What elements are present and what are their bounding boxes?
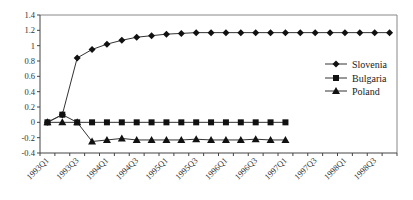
x-tick-label: 1993Q1 (24, 155, 50, 181)
legend-label-bulgaria: Bulgaria (352, 73, 387, 84)
diamond-marker-icon (103, 41, 110, 48)
x-tick-label: 1996Q1 (203, 155, 229, 181)
diamond-marker-icon (237, 29, 244, 36)
diamond-marker-icon (386, 29, 393, 36)
triangle-marker-icon (252, 135, 260, 142)
data-series (43, 29, 393, 144)
square-marker-icon (282, 119, 288, 125)
y-tick-label: 0 (31, 117, 35, 127)
x-tick-label: 1998Q3 (352, 155, 378, 181)
diamond-marker-icon (333, 61, 340, 68)
diamond-marker-icon (178, 30, 185, 37)
diamond-marker-icon (89, 46, 96, 53)
diamond-marker-icon (74, 54, 81, 61)
y-tick-label: 0.4 (24, 87, 35, 97)
diamond-marker-icon (148, 32, 155, 39)
line-chart: 1.41.210.80.60.40.20-0.2-0.4 1993Q11993Q… (0, 0, 413, 200)
square-marker-icon (253, 119, 259, 125)
square-marker-icon (333, 75, 339, 81)
square-marker-icon (238, 119, 244, 125)
diamond-marker-icon (208, 29, 215, 36)
x-tick-label: 1993Q3 (54, 155, 80, 181)
x-tick-label: 1997Q1 (262, 155, 288, 181)
legend-item-slovenia: Slovenia (325, 59, 388, 70)
square-marker-icon (208, 119, 214, 125)
legend-item-bulgaria: Bulgaria (325, 73, 387, 84)
diamond-marker-icon (193, 29, 200, 36)
legend: Slovenia Bulgaria Poland (325, 59, 388, 98)
diamond-marker-icon (327, 29, 334, 36)
square-marker-icon (149, 119, 155, 125)
triangle-marker-icon (192, 135, 200, 142)
square-marker-icon (104, 119, 110, 125)
legend-label-poland: Poland (352, 86, 380, 97)
x-axis: 1993Q11993Q31994Q11994Q31995Q11995Q31996… (24, 153, 397, 182)
square-marker-icon (193, 119, 199, 125)
y-axis: 1.41.210.80.60.40.20-0.2-0.4 (22, 10, 40, 158)
diamond-marker-icon (133, 34, 140, 41)
diamond-marker-icon (297, 29, 304, 36)
legend-label-slovenia: Slovenia (352, 59, 388, 70)
diamond-marker-icon (252, 29, 259, 36)
series-bulgaria (44, 112, 288, 126)
triangle-marker-icon (118, 134, 126, 141)
diamond-marker-icon (267, 29, 274, 36)
y-tick-label: 1.4 (24, 10, 35, 20)
diamond-marker-icon (282, 29, 289, 36)
x-tick-label: 1996Q3 (233, 155, 259, 181)
square-marker-icon (74, 119, 80, 125)
square-marker-icon (178, 119, 184, 125)
diamond-marker-icon (356, 29, 363, 36)
square-marker-icon (163, 119, 169, 125)
diamond-marker-icon (222, 29, 229, 36)
x-tick-label: 1994Q1 (84, 155, 110, 181)
diamond-marker-icon (371, 29, 378, 36)
diamond-marker-icon (312, 29, 319, 36)
x-tick-label: 1997Q3 (292, 155, 318, 181)
y-tick-label: 1 (31, 41, 35, 51)
diamond-marker-icon (118, 37, 125, 44)
square-marker-icon (268, 119, 274, 125)
legend-item-poland: Poland (325, 86, 380, 97)
square-marker-icon (223, 119, 229, 125)
x-tick-label: 1998Q1 (322, 155, 348, 181)
y-tick-label: -0.2 (22, 133, 35, 143)
square-marker-icon (89, 119, 95, 125)
x-tick-label: 1994Q3 (114, 155, 140, 181)
x-tick-label: 1995Q1 (143, 155, 169, 181)
x-tick-label: 1995Q3 (173, 155, 199, 181)
y-tick-label: 1.2 (24, 25, 35, 35)
plot-frame (40, 15, 397, 153)
y-tick-label: 0.8 (24, 56, 35, 66)
chart-canvas: 1.41.210.80.60.40.20-0.2-0.4 1993Q11993Q… (0, 0, 413, 200)
square-marker-icon (119, 119, 125, 125)
series-slovenia (44, 29, 393, 126)
y-tick-label: 0.6 (24, 71, 35, 81)
diamond-marker-icon (163, 31, 170, 38)
y-tick-label: -0.4 (22, 148, 36, 158)
y-tick-label: 0.2 (24, 102, 35, 112)
diamond-marker-icon (341, 29, 348, 36)
square-marker-icon (134, 119, 140, 125)
